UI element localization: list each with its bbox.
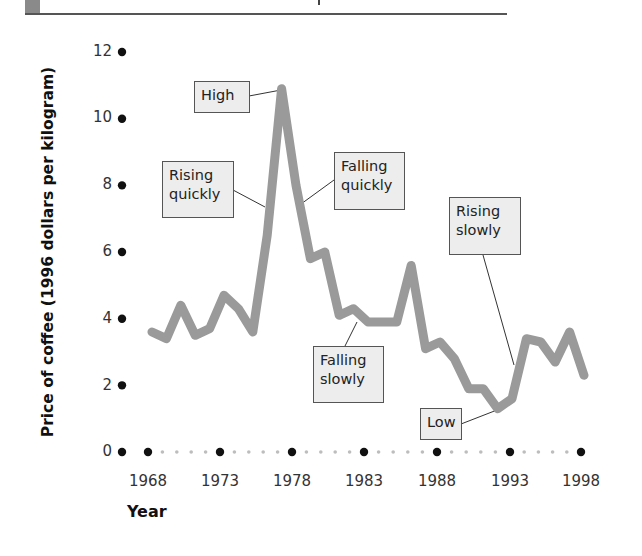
y-axis-dot [118,48,126,56]
x-axis-minor-dot [522,450,526,454]
x-axis-minor-dot [233,450,237,454]
y-tick-6: 6 [82,242,112,260]
x-axis-minor-dot [537,450,541,454]
x-axis-minor-dot [565,450,569,454]
annotation-low: Low [420,408,462,440]
annotation-falling-quickly: Falling quickly [334,152,405,210]
x-tick-1988: 1988 [407,472,467,490]
x-tick-1983: 1983 [334,472,394,490]
x-axis-minor-dot [189,450,193,454]
annotation-rising-slowly-line1: Rising [456,202,514,221]
x-axis-minor-dot [305,450,309,454]
x-axis-minor-dot [406,450,410,454]
y-tick-0: 0 [82,442,112,460]
x-tick-1968: 1968 [118,472,178,490]
x-axis-dot [216,448,224,456]
x-axis-minor-dot [377,450,381,454]
leader-line [345,322,357,346]
x-axis-minor-dot [479,450,483,454]
x-axis-dot [433,448,441,456]
x-axis-minor-dot [204,450,208,454]
x-tick-1973: 1973 [190,472,250,490]
annotation-low-text: Low [427,414,456,430]
y-tick-12: 12 [82,42,112,60]
y-axis-dot [118,314,126,322]
x-axis-minor-dot [261,450,265,454]
annotation-rising-slowly-line2: slowly [456,221,514,240]
x-axis-dot [288,448,296,456]
x-axis-dot [577,448,585,456]
x-axis-minor-dot [494,450,498,454]
x-axis-minor-dot [319,450,323,454]
leader-line [301,180,334,204]
x-axis-minor-dot [175,450,179,454]
x-axis-minor-dot [348,450,352,454]
annotation-falling-slowly: Falling slowly [313,346,384,403]
y-tick-4: 4 [82,309,112,327]
x-axis-minor-dot [391,450,395,454]
x-axis-minor-dot [551,450,555,454]
x-axis-minor-dot [333,450,337,454]
x-axis-minor-dot [464,450,468,454]
annotation-high-text: High [201,87,234,103]
x-axis-minor-dot [450,450,454,454]
leader-line [249,90,281,96]
x-axis-dot [506,448,514,456]
y-tick-2: 2 [82,376,112,394]
y-tick-10: 10 [82,108,112,126]
annotation-rising-quickly-line1: Rising [169,166,227,185]
x-axis-minor-dot [421,450,425,454]
leader-line [483,255,514,365]
annotation-falling-slowly-line2: slowly [320,370,377,389]
y-tick-8: 8 [82,175,112,193]
annotation-falling-quickly-line1: Falling [341,157,398,176]
x-axis-dot [360,448,368,456]
x-axis-dot [144,448,152,456]
x-axis-label: Year [127,502,167,521]
annotation-rising-quickly: Rising quickly [162,161,234,218]
y-axis-label: Price of coffee (1996 dollars per kilogr… [39,67,57,437]
y-axis-dot [118,181,126,189]
leader-line [233,190,265,207]
x-axis-minor-dot [247,450,251,454]
annotation-rising-slowly: Rising slowly [449,197,521,255]
annotation-rising-quickly-line2: quickly [169,185,227,204]
y-axis-dot [118,115,126,123]
x-tick-1978: 1978 [262,472,322,490]
y-axis-dot [118,448,126,456]
x-axis-minor-dot [161,450,165,454]
y-axis-dot [118,248,126,256]
annotation-falling-slowly-line1: Falling [320,351,377,370]
leader-line [461,410,497,424]
annotation-falling-quickly-line2: quickly [341,176,398,195]
annotation-high: High [194,81,250,113]
x-tick-1998: 1998 [551,472,611,490]
x-tick-1993: 1993 [480,472,540,490]
x-axis-minor-dot [276,450,280,454]
y-axis-dot [118,381,126,389]
